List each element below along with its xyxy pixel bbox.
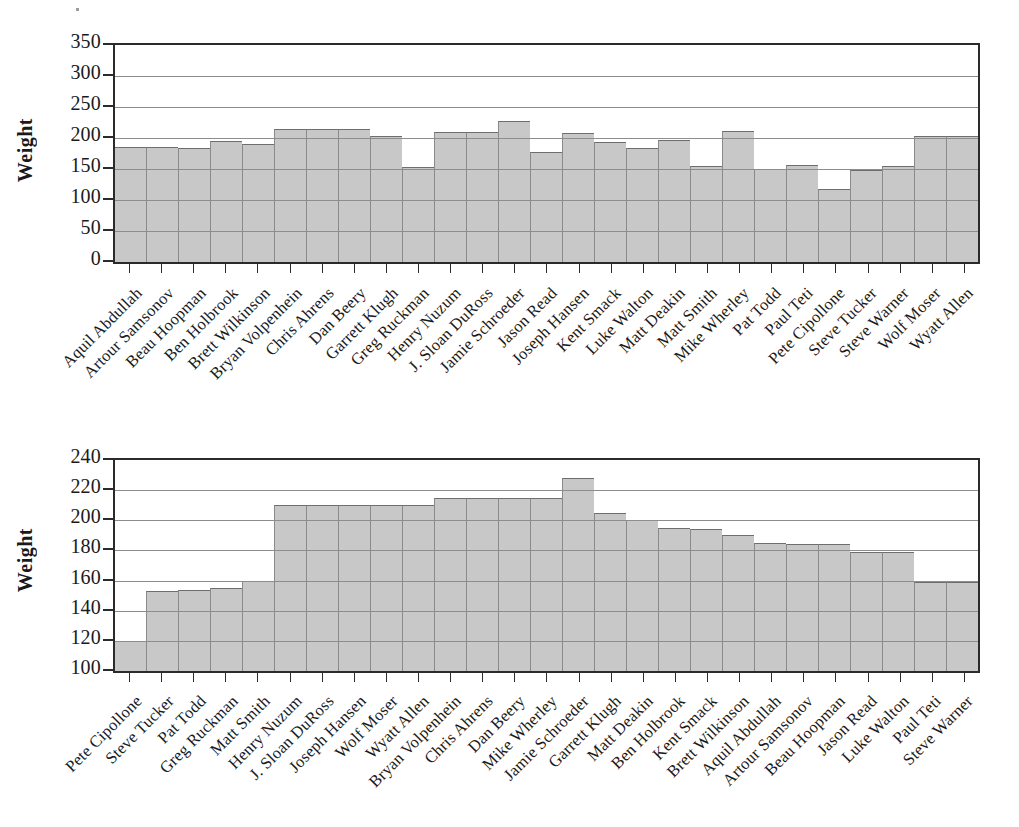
x-tick-mark (691, 672, 723, 682)
bar (370, 136, 402, 262)
bar (754, 543, 786, 671)
x-tick-mark (659, 672, 691, 682)
y-tick-mark (103, 609, 113, 611)
y-tick-mark (103, 74, 113, 76)
gridline (115, 581, 978, 582)
bar (498, 498, 530, 671)
bar (562, 133, 594, 262)
bar (786, 544, 818, 671)
x-tick-mark (627, 672, 659, 682)
x-tick-mark (306, 672, 338, 682)
x-tick-mark (884, 672, 916, 682)
gridline (115, 138, 978, 139)
x-tick-mark (145, 263, 177, 273)
bar (402, 505, 434, 671)
bar (274, 505, 306, 671)
y-tick-mark (103, 167, 113, 169)
y-tick-label: 100 (70, 186, 101, 206)
y-tick-mark (103, 548, 113, 550)
bar (722, 131, 754, 262)
bar (370, 505, 402, 671)
x-tick-mark (177, 672, 209, 682)
x-tick-mark (434, 672, 466, 682)
x-tick-mark (113, 263, 145, 273)
bar (786, 165, 818, 262)
x-tick-marks-top (113, 263, 980, 273)
bar (146, 147, 178, 262)
bar-series-bottom (115, 460, 978, 671)
x-tick-mark (145, 672, 177, 682)
x-tick-mark (338, 263, 370, 273)
gridline (115, 200, 978, 201)
bar (338, 505, 370, 671)
gridline (115, 550, 978, 551)
bar (242, 581, 274, 671)
x-tick-mark (274, 672, 306, 682)
y-tick-mark (103, 579, 113, 581)
x-tick-mark (819, 672, 851, 682)
gridline (115, 641, 978, 642)
x-tick-mark (787, 672, 819, 682)
x-tick-mark (434, 263, 466, 273)
x-tick-mark (241, 263, 273, 273)
y-tick-label: 250 (70, 93, 101, 113)
x-tick-mark (466, 672, 498, 682)
x-tick-mark (113, 672, 145, 682)
x-tick-mark (755, 263, 787, 273)
x-tick-mark (306, 263, 338, 273)
bar (242, 144, 274, 262)
y-tick-mark (103, 669, 113, 671)
x-tick-mark (402, 672, 434, 682)
bar (306, 129, 338, 262)
plot-area-top (113, 43, 980, 264)
x-tick-mark (530, 263, 562, 273)
y-tick-mark (103, 198, 113, 200)
x-tick-mark (723, 263, 755, 273)
y-tick-label: 180 (70, 536, 101, 556)
bar (466, 498, 498, 671)
x-tick-mark (498, 672, 530, 682)
bar (658, 528, 690, 671)
bar (946, 136, 978, 262)
bar (594, 513, 626, 671)
y-tick-label: 140 (70, 597, 101, 617)
x-tick-mark (370, 263, 402, 273)
scan-speck (76, 8, 79, 11)
bar (115, 147, 146, 262)
y-tick-mark (103, 229, 113, 231)
bar (722, 535, 754, 671)
y-tick-label: 100 (70, 657, 101, 677)
x-tick-mark (691, 263, 723, 273)
y-tick-mark (103, 136, 113, 138)
y-tick-label: 0 (91, 248, 101, 268)
y-tick-label: 220 (70, 476, 101, 496)
bar (178, 590, 210, 671)
y-axis-title-top: Weight (14, 118, 37, 182)
plot-area-bottom (113, 458, 980, 673)
gridline (115, 76, 978, 77)
x-tick-mark (241, 672, 273, 682)
y-axis-title-bottom: Weight (14, 528, 37, 592)
x-tick-mark (723, 672, 755, 682)
y-tick-label: 200 (70, 124, 101, 144)
y-tick-label: 150 (70, 155, 101, 175)
x-tick-mark (498, 263, 530, 273)
bar (466, 132, 498, 262)
bar (882, 166, 914, 262)
gridline (115, 611, 978, 612)
bar-series-top (115, 45, 978, 262)
y-tick-mark (103, 260, 113, 262)
x-tick-mark (563, 263, 595, 273)
x-tick-mark (627, 263, 659, 273)
x-tick-mark (563, 672, 595, 682)
bar (434, 132, 466, 262)
gridline (115, 231, 978, 232)
bar (306, 505, 338, 671)
x-tick-mark (884, 263, 916, 273)
gridline (115, 107, 978, 108)
bar (210, 141, 242, 262)
x-tick-mark (852, 672, 884, 682)
bar (115, 641, 146, 671)
y-tick-mark (103, 518, 113, 520)
x-tick-marks-bottom (113, 672, 980, 682)
